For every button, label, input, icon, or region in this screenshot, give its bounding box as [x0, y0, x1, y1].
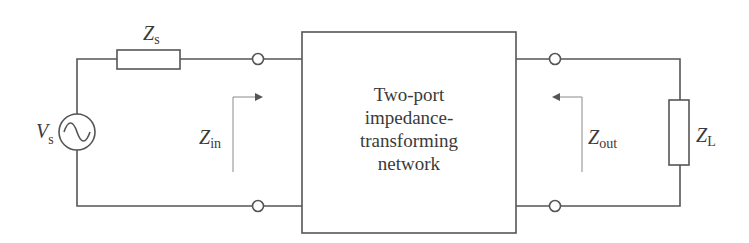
- network-label-line-2: impedance-: [365, 107, 454, 128]
- network-label-line-1: Two-port: [374, 84, 445, 105]
- sine-wave-icon: [64, 123, 90, 141]
- network-label-line-4: network: [378, 153, 441, 174]
- terminal-out-bottom: [550, 201, 561, 212]
- terminal-in-bottom: [253, 201, 264, 212]
- load-impedance-resistor: [669, 100, 689, 165]
- zin-arrow-head-icon: [255, 93, 263, 101]
- zs-label: Zs: [143, 22, 160, 47]
- wire-right-top: [560, 59, 680, 100]
- zout-label: Zout: [588, 126, 617, 151]
- zin-label: Zin: [199, 126, 221, 151]
- wire-left-bottom: [77, 150, 253, 206]
- wire-right-bottom: [560, 165, 680, 206]
- zin-arrow-line: [233, 97, 255, 172]
- terminal-out-top: [550, 54, 561, 65]
- wire-left-top: [77, 59, 117, 114]
- network-label-line-3: transforming: [360, 130, 459, 151]
- terminal-in-top: [253, 54, 264, 65]
- source-impedance-resistor: [117, 50, 180, 69]
- vs-label: Vs: [36, 120, 54, 147]
- circuit-diagram: Zs Vs Zin Zout ZL Two-port impedance- tr…: [0, 0, 749, 243]
- network-label: Two-port impedance- transforming network: [360, 84, 459, 174]
- zl-label: ZL: [696, 124, 716, 149]
- zout-arrow-head-icon: [552, 93, 560, 101]
- zout-arrow-line: [560, 97, 582, 172]
